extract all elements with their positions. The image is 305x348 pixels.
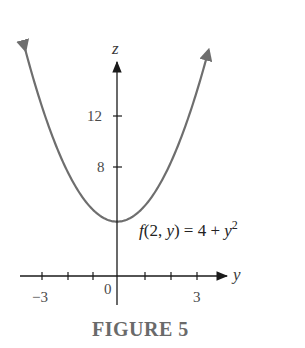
tick-label-3: 3 bbox=[193, 289, 201, 305]
y-axis-label: y bbox=[231, 265, 241, 284]
tick-label-0: 0 bbox=[104, 281, 112, 297]
tick-label-neg3: −3 bbox=[32, 289, 48, 305]
figure-5-chart: y −3 0 3 z 12 8 f(2, y) = 4 + y2 FIGURE … bbox=[0, 0, 305, 348]
z-axis: z 12 8 bbox=[87, 39, 122, 305]
tick-label-8: 8 bbox=[97, 159, 105, 175]
equation-annotation: f(2, y) = 4 + y2 bbox=[139, 218, 238, 240]
figure-caption: FIGURE 5 bbox=[92, 318, 189, 340]
tick-label-12: 12 bbox=[87, 108, 102, 124]
y-axis: y −3 0 3 bbox=[20, 265, 241, 305]
z-axis-label: z bbox=[111, 39, 119, 58]
